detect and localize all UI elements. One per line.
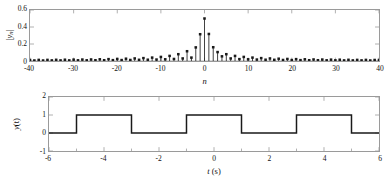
spectrum-xaxis-label: n xyxy=(202,76,206,86)
waveform-ytick--1: -1 xyxy=(26,148,46,156)
spectrum-yaxis-bar-right: | xyxy=(4,30,14,32)
spectrum-xtick--30: -30 xyxy=(68,65,78,73)
spectrum-ytick-0.2: 0.2 xyxy=(4,41,27,49)
waveform-xtick-2: 2 xyxy=(267,155,271,163)
figure-root: 0 0.2 0.4 0.6 -40 -30 -20 -10 0 10 20 30… xyxy=(0,0,385,183)
waveform-yaxis-label: y(t) xyxy=(11,118,21,130)
spectrum-xtick-20: 20 xyxy=(289,65,297,73)
waveform-xaxis-unit: (s) xyxy=(210,166,221,176)
waveform-xtick--4: -4 xyxy=(100,155,106,163)
spectrum-xtick-0: 0 xyxy=(203,65,207,73)
spectrum-xtick-30: 30 xyxy=(332,65,340,73)
waveform-xaxis-label: t (s) xyxy=(207,166,220,176)
spectrum-xtick-10: 10 xyxy=(245,65,253,73)
waveform-ytick-2: 2 xyxy=(26,92,46,100)
spectrum-ytick-0.6: 0.6 xyxy=(4,5,27,13)
spectrum-plot-area xyxy=(29,9,380,62)
waveform-xtick-0: 0 xyxy=(212,155,216,163)
waveform-panel: -1 0 1 2 -6 -4 -2 0 2 4 6 t (s) y(t) xyxy=(0,92,385,183)
spectrum-xtick--10: -10 xyxy=(156,65,166,73)
spectrum-xtick--20: -20 xyxy=(112,65,122,73)
waveform-yaxis-symbol: y xyxy=(11,126,21,130)
spectrum-xtick--40: -40 xyxy=(24,65,34,73)
spectrum-stem-canvas xyxy=(30,10,379,61)
spectrum-xtick-40: 40 xyxy=(376,65,384,73)
waveform-xtick-6: 6 xyxy=(378,155,382,163)
spectrum-yaxis-symbol: y xyxy=(4,35,14,39)
waveform-plot-area xyxy=(48,96,380,152)
waveform-line-canvas xyxy=(49,97,379,151)
waveform-ytick-1: 1 xyxy=(26,111,46,119)
spectrum-panel: 0 0.2 0.4 0.6 -40 -30 -20 -10 0 10 20 30… xyxy=(0,0,385,92)
spectrum-yaxis-label: |yn| xyxy=(4,30,14,40)
waveform-xtick-4: 4 xyxy=(323,155,327,163)
waveform-yaxis-arg: (t) xyxy=(11,118,21,126)
waveform-xtick--6: -6 xyxy=(45,155,51,163)
spectrum-yaxis-bar-left: | xyxy=(4,39,14,41)
waveform-xtick--2: -2 xyxy=(156,155,162,163)
waveform-ytick-0: 0 xyxy=(26,130,46,138)
spectrum-yaxis-subscript: n xyxy=(7,31,14,34)
